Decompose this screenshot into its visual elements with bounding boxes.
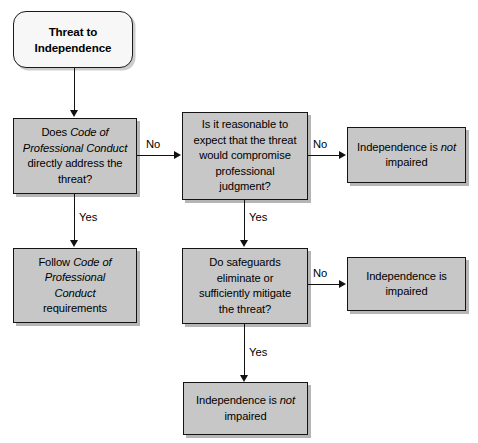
node-threat-to-independence-label: Threat to Independence (14, 24, 132, 55)
reasonable-line-4: professional (215, 165, 274, 177)
node-independence-not-impaired-bottom[interactable]: Independence is not impaired (183, 382, 308, 435)
node-independence-impaired-label: Independence is impaired (348, 269, 465, 300)
follow-line-1-prefix: Follow (38, 256, 73, 268)
arrowhead-start-to-code (70, 110, 78, 117)
impaired-line-2: impaired (385, 285, 427, 297)
reasonable-line-5: judgment? (219, 180, 270, 192)
not-impaired-top-line-2: impaired (385, 156, 427, 168)
follow-line-3-italic: Conduct (55, 287, 96, 299)
safeguards-line-1: Do safeguards (209, 256, 280, 268)
code-line-1-italic: Code of (70, 126, 108, 138)
not-impaired-bottom-line-2: impaired (224, 410, 266, 422)
flowchart-canvas: Threat to Independence Does Code of Prof… (0, 0, 478, 443)
code-line-2-italic: Professional Conduct (23, 142, 127, 154)
edge-label-reasonable-yes: Yes (249, 211, 267, 224)
arrowhead-safeguards-yes (240, 375, 248, 382)
arrowhead-safeguards-no (339, 280, 346, 288)
start-line-2: Independence (35, 41, 112, 54)
follow-line-2-italic: Professional (45, 271, 105, 283)
edge-label-reasonable-no: No (313, 138, 327, 151)
not-impaired-bottom-line-1-prefix: Independence is (196, 394, 280, 406)
safeguards-line-2: eliminate or (217, 272, 274, 284)
arrowhead-reasonable-yes (240, 240, 248, 247)
not-impaired-top-line-1-italic: not (441, 141, 456, 153)
connector-code-yes (74, 194, 75, 242)
reasonable-line-1: Is it reasonable to (202, 118, 288, 130)
node-do-safeguards-mitigate[interactable]: Do safeguards eliminate or sufficiently … (182, 248, 308, 324)
node-threat-to-independence[interactable]: Threat to Independence (13, 11, 133, 68)
code-line-4: threat? (58, 173, 92, 185)
impaired-line-1: Independence is (366, 270, 447, 282)
node-independence-impaired[interactable]: Independence is impaired (347, 257, 466, 311)
not-impaired-bottom-line-1-italic: not (280, 394, 295, 406)
connector-safeguards-no (308, 284, 340, 285)
safeguards-line-3: sufficiently mitigate (199, 287, 291, 299)
edge-label-code-no: No (146, 138, 160, 151)
arrowhead-code-no (174, 151, 181, 159)
node-does-code-address-threat[interactable]: Does Code of Professional Conduct direct… (13, 118, 137, 194)
edge-label-code-yes: Yes (79, 211, 97, 224)
connector-reasonable-no (308, 155, 340, 156)
node-does-code-address-threat-label: Does Code of Professional Conduct direct… (14, 125, 136, 187)
node-do-safeguards-mitigate-label: Do safeguards eliminate or sufficiently … (183, 255, 307, 317)
connector-safeguards-yes (244, 324, 245, 377)
edge-label-safeguards-no: No (313, 267, 327, 280)
arrowhead-code-yes (70, 240, 78, 247)
start-line-1: Threat to (49, 25, 98, 38)
node-independence-not-impaired-top-label: Independence is not impaired (348, 140, 465, 171)
node-is-it-reasonable-label: Is it reasonable to expect that the thre… (183, 117, 307, 195)
node-is-it-reasonable[interactable]: Is it reasonable to expect that the thre… (182, 112, 308, 200)
node-independence-not-impaired-bottom-label: Independence is not impaired (184, 393, 307, 424)
connector-start-to-code (74, 68, 75, 111)
reasonable-line-2: expect that the threat (194, 134, 297, 146)
safeguards-line-4: the threat? (219, 303, 271, 315)
arrowhead-reasonable-no (339, 151, 346, 159)
connector-reasonable-yes (244, 200, 245, 242)
node-independence-not-impaired-top[interactable]: Independence is not impaired (347, 127, 466, 183)
reasonable-line-3: would compromise (199, 149, 291, 161)
node-follow-code-requirements-label: Follow Code of Professional Conduct requ… (14, 255, 136, 317)
node-follow-code-requirements[interactable]: Follow Code of Professional Conduct requ… (13, 248, 137, 323)
edge-label-safeguards-yes: Yes (249, 346, 267, 359)
follow-line-1-italic: Code of (73, 256, 111, 268)
follow-line-4: requirements (43, 302, 107, 314)
not-impaired-top-line-1-prefix: Independence is (357, 141, 441, 153)
code-line-3: directly address the (27, 157, 122, 169)
connector-code-no (137, 155, 175, 156)
code-line-1-prefix: Does (41, 126, 70, 138)
